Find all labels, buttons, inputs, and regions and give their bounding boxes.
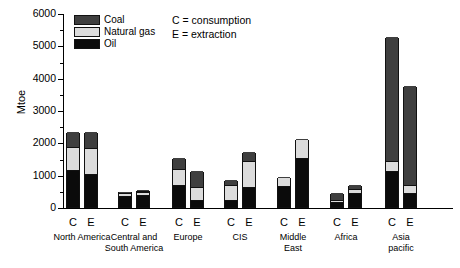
bar-segment-natural-gas [296,139,308,158]
bar-segment-natural-gas [119,193,131,197]
bar-segment-coal [331,193,343,201]
bar-segment-coal [191,171,203,187]
bar-segment-oil [349,194,361,207]
bar-segment-natural-gas [243,161,255,189]
bar-cis-E [242,153,256,208]
x-group-label-north-america: North America [52,232,112,243]
bar-asia-pacific-E [403,87,417,208]
bar-type-label-E: E [239,216,259,228]
bar-europe-E [190,172,204,208]
bar-europe-C [172,159,186,208]
group-label-line: Asia [371,232,431,243]
y-tick-label: 4000 [20,72,56,84]
bar-asia-pacific-C [385,38,399,208]
plot-area [63,14,453,208]
group-label-line: South America [104,243,164,254]
group-label-line: Europe [158,232,218,243]
bar-segment-oil [137,196,149,207]
bar-segment-oil [386,172,398,207]
y-tick-label: 6000 [20,7,56,19]
bar-type-label-E: E [133,216,153,228]
legend-label-natural-gas: Natural gas [104,26,155,37]
bar-segment-oil [243,188,255,207]
bar-segment-coal [386,37,398,161]
bar-segment-coal [137,190,149,191]
bar-segment-oil [404,194,416,207]
bar-central-and-south-america-E [136,191,150,208]
bar-type-label-E: E [187,216,207,228]
legend-label-coal: Coal [104,14,125,25]
x-group-label-africa: Africa [316,232,376,243]
bar-africa-C [330,194,344,208]
bar-segment-coal [119,192,131,193]
bar-segment-natural-gas [85,148,97,175]
y-tick-label: 2000 [20,136,56,148]
stacked-bar-chart: Mtoe 0100020003000400050006000 CENorth A… [0,0,460,268]
bar-segment-natural-gas [137,192,149,197]
bar-segment-natural-gas [191,187,203,201]
group-label-line: pacific [371,243,431,254]
bar-segment-natural-gas [349,189,361,194]
bar-type-label-E: E [400,216,420,228]
group-label-line: Central and [104,232,164,243]
legend-label-oil: Oil [104,38,116,49]
bar-segment-natural-gas [173,169,185,186]
bar-segment-coal [173,158,185,169]
y-tick-label: 5000 [20,39,56,51]
bar-north-america-C [66,133,80,208]
bar-segment-oil [67,171,79,207]
bar-segment-natural-gas [404,185,416,195]
annotation-extraction: E = extraction [172,28,237,40]
legend-swatch-oil [74,39,100,49]
bar-africa-E [348,186,362,208]
x-group-label-cis: CIS [210,232,270,243]
group-label-line: Africa [316,232,376,243]
bar-segment-oil [296,159,308,208]
bar-type-label-C: C [169,216,189,228]
bar-segment-oil [331,203,343,207]
x-group-label-middle-east: MiddleEast [263,232,323,253]
y-tick-label: 0 [20,201,56,213]
bar-segment-natural-gas [386,161,398,172]
bar-type-label-C: C [382,216,402,228]
bar-segment-natural-gas [331,200,343,202]
bar-segment-natural-gas [278,177,290,186]
x-group-label-central-and-south-america: Central andSouth America [104,232,164,253]
bar-segment-coal [243,152,255,161]
bar-cis-C [224,181,238,208]
bar-north-america-E [84,133,98,208]
bar-segment-oil [225,201,237,207]
bar-segment-oil [278,187,290,207]
bar-segment-oil [173,186,185,207]
bar-segment-coal [85,132,97,148]
group-label-line: North America [52,232,112,243]
bar-type-label-E: E [81,216,101,228]
y-tick-label: 1000 [20,169,56,181]
bar-type-label-C: C [221,216,241,228]
legend-swatch-coal [74,15,100,25]
x-group-label-europe: Europe [158,232,218,243]
legend-swatch-natural-gas [74,27,100,37]
bar-segment-coal [67,132,79,147]
annotation-consumption: C = consumption [172,14,251,26]
bar-segment-oil [191,201,203,207]
bar-segment-natural-gas [67,147,79,171]
bar-type-label-C: C [63,216,83,228]
bar-segment-coal [225,180,237,185]
bar-segment-coal [404,86,416,185]
group-label-line: East [263,243,323,254]
bar-central-and-south-america-C [118,192,132,208]
bar-type-label-E: E [345,216,365,228]
group-label-line: CIS [210,232,270,243]
bar-type-label-C: C [327,216,347,228]
group-label-line: Middle [263,232,323,243]
bar-middle-east-C [277,178,291,208]
bar-segment-oil [85,175,97,207]
bar-middle-east-E [295,140,309,208]
bar-segment-natural-gas [225,185,237,201]
bar-type-label-C: C [274,216,294,228]
bar-type-label-C: C [115,216,135,228]
x-group-label-asia-pacific: Asiapacific [371,232,431,253]
x-axis-line [63,208,453,209]
bar-segment-coal [349,185,361,189]
